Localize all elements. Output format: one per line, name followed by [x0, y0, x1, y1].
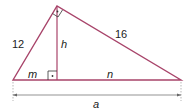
triangle-diagram: 12 16 h m n a	[0, 0, 192, 111]
label-hypotenuse: a	[93, 98, 99, 110]
label-left-leg: 12	[12, 38, 24, 50]
label-right-segment: n	[107, 68, 113, 80]
label-left-segment: m	[28, 68, 37, 80]
triangle	[13, 6, 181, 80]
label-right-leg: 16	[115, 28, 127, 40]
foot-right-angle-marker	[48, 71, 57, 80]
label-altitude: h	[61, 38, 67, 50]
